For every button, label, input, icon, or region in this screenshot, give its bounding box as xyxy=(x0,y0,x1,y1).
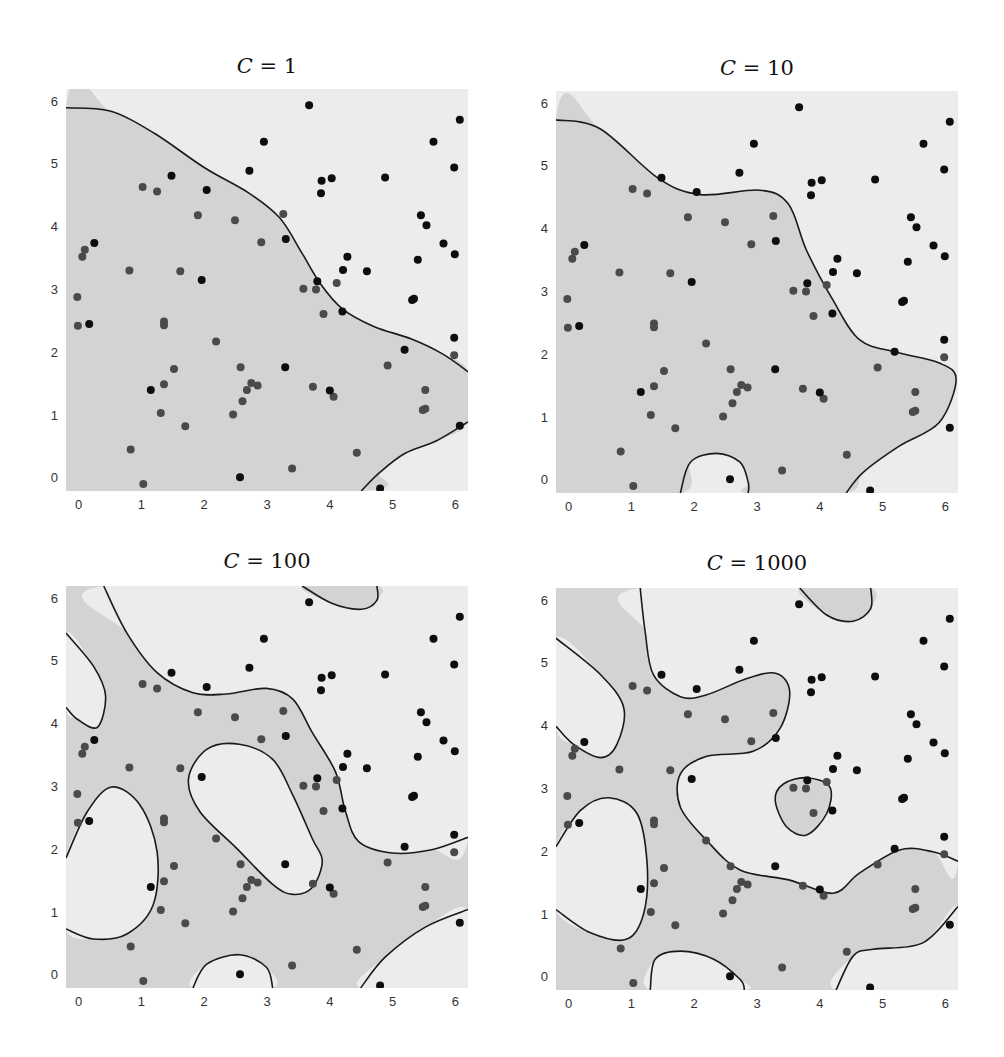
data-point-class-b xyxy=(571,248,579,256)
data-point-class-a xyxy=(637,388,645,396)
data-point-class-a xyxy=(401,346,409,354)
data-point-class-b xyxy=(874,860,882,868)
data-point-class-a xyxy=(829,765,837,773)
data-point-class-b xyxy=(384,361,392,369)
data-point-class-a xyxy=(853,269,861,277)
data-point-class-b xyxy=(660,864,668,872)
data-point-class-b xyxy=(564,324,572,332)
data-point-class-a xyxy=(450,164,458,172)
data-point-class-a xyxy=(338,804,346,812)
data-point-class-b xyxy=(279,707,287,715)
data-point-class-b xyxy=(911,885,919,893)
data-point-class-a xyxy=(440,240,448,248)
data-point-class-b xyxy=(320,310,328,318)
x-tick-label: 3 xyxy=(747,499,767,514)
data-point-class-a xyxy=(451,250,459,258)
y-tick-label: 3 xyxy=(534,781,548,796)
data-point-class-a xyxy=(417,211,425,219)
data-point-class-b xyxy=(176,267,184,275)
data-point-class-b xyxy=(231,216,239,224)
data-point-class-b xyxy=(312,285,320,293)
data-point-class-b xyxy=(157,409,165,417)
data-point-class-a xyxy=(245,167,253,175)
data-point-class-b xyxy=(139,977,147,985)
data-point-class-b xyxy=(647,411,655,419)
x-tick-label: 1 xyxy=(131,994,151,1009)
y-tick-label: 4 xyxy=(44,716,58,731)
data-point-class-b xyxy=(650,820,658,828)
data-point-class-a xyxy=(381,174,389,182)
data-point-class-a xyxy=(313,774,321,782)
data-point-class-b xyxy=(257,735,265,743)
y-tick-label: 3 xyxy=(44,282,58,297)
y-tick-label: 5 xyxy=(44,653,58,668)
data-point-class-a xyxy=(940,833,948,841)
data-point-class-b xyxy=(157,906,165,914)
data-point-class-a xyxy=(580,738,588,746)
data-point-class-a xyxy=(904,755,912,763)
title-variable: C xyxy=(237,54,253,78)
x-tick-label: 2 xyxy=(194,994,214,1009)
data-point-class-b xyxy=(81,246,89,254)
data-point-class-b xyxy=(564,821,572,829)
data-point-class-b xyxy=(243,883,251,891)
data-point-class-a xyxy=(260,635,268,643)
data-point-class-b xyxy=(212,338,220,346)
data-point-class-b xyxy=(160,818,168,826)
data-point-class-b xyxy=(309,383,317,391)
y-tick-label: 1 xyxy=(534,410,548,425)
plot-svg xyxy=(66,89,468,491)
data-point-class-b xyxy=(81,743,89,751)
y-tick-label: 4 xyxy=(44,219,58,234)
data-point-class-a xyxy=(930,242,938,250)
y-tick-label: 4 xyxy=(534,718,548,733)
data-point-class-a xyxy=(339,266,347,274)
data-point-class-a xyxy=(440,737,448,745)
data-point-class-b xyxy=(744,384,752,392)
data-point-class-b xyxy=(671,921,679,929)
data-point-class-a xyxy=(891,845,899,853)
data-point-class-b xyxy=(194,708,202,716)
data-point-class-b xyxy=(911,388,919,396)
data-point-class-b xyxy=(789,287,797,295)
data-point-class-b xyxy=(153,187,161,195)
data-point-class-b xyxy=(73,293,81,301)
data-point-class-b xyxy=(160,877,168,885)
data-point-class-b xyxy=(153,684,161,692)
x-tick-label: 0 xyxy=(559,996,579,1011)
data-point-class-a xyxy=(772,237,780,245)
data-point-class-a xyxy=(726,972,734,980)
data-point-class-b xyxy=(702,837,710,845)
plot-area xyxy=(556,588,958,990)
data-point-class-b xyxy=(719,412,727,420)
data-point-class-b xyxy=(450,351,458,359)
data-point-class-a xyxy=(381,671,389,679)
x-tick-label: 2 xyxy=(684,499,704,514)
data-point-class-b xyxy=(629,979,637,987)
data-point-class-b xyxy=(78,253,86,261)
data-point-class-b xyxy=(563,295,571,303)
data-point-class-a xyxy=(828,309,836,317)
data-point-class-b xyxy=(74,322,82,330)
data-point-class-a xyxy=(423,718,431,726)
data-point-class-b xyxy=(127,943,135,951)
data-point-class-b xyxy=(288,961,296,969)
data-point-class-a xyxy=(198,773,206,781)
data-point-class-a xyxy=(305,101,313,109)
data-point-class-a xyxy=(871,176,879,184)
panel-title: C = 10 xyxy=(556,56,958,80)
data-point-class-a xyxy=(456,613,464,621)
data-point-class-a xyxy=(871,673,879,681)
x-tick-label: 1 xyxy=(621,499,641,514)
data-point-class-a xyxy=(816,886,824,894)
data-point-class-b xyxy=(615,766,623,774)
data-point-class-b xyxy=(299,782,307,790)
data-point-class-b xyxy=(823,778,831,786)
data-point-class-a xyxy=(410,295,418,303)
data-point-class-a xyxy=(236,970,244,978)
data-point-class-a xyxy=(575,819,583,827)
data-point-class-a xyxy=(430,138,438,146)
data-point-class-a xyxy=(637,885,645,893)
data-point-class-b xyxy=(747,737,755,745)
data-point-class-b xyxy=(843,948,851,956)
